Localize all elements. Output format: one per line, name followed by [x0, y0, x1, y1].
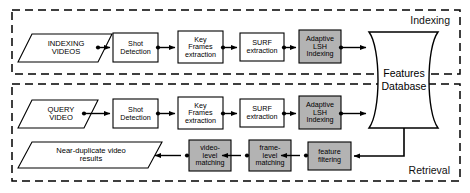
edge-node-dot [304, 153, 308, 157]
edge-node-dot [339, 45, 343, 49]
edge-node-dot [221, 111, 225, 115]
edge-node-dot [282, 111, 286, 115]
edge-node-dot [82, 111, 86, 115]
diagram-graphics [0, 0, 470, 193]
edge-node-dot [96, 45, 100, 49]
node-feature-filtering-shape [308, 142, 351, 170]
node-results-shape [18, 142, 162, 168]
edge-node-dot [156, 111, 160, 115]
node-key-frames-idx-shape [178, 31, 223, 63]
edge-node-dot [282, 45, 286, 49]
node-key-frames-qry-shape [178, 97, 223, 129]
edge-node-dot [339, 111, 343, 115]
node-lsh-idx-shape [299, 30, 341, 63]
node-shot-detection-qry-shape [113, 99, 158, 128]
edge-node-dot [156, 45, 160, 49]
node-surf-qry-shape [240, 99, 284, 127]
node-features-database-shape [369, 32, 438, 128]
edge-database-to-feature-filtering [354, 128, 404, 156]
edge-node-dot [185, 153, 189, 157]
node-lsh-qry-shape [299, 96, 341, 129]
node-surf-idx-shape [240, 33, 284, 61]
edge-node-dot [221, 45, 225, 49]
diagram-canvas: INDEXING VIDEOS Shot Detection Key Frame… [0, 0, 470, 193]
node-shot-detection-idx-shape [113, 33, 158, 62]
edge-node-dot [245, 153, 249, 157]
